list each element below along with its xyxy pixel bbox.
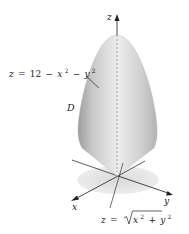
z-axis-label: z (106, 12, 112, 22)
x-axis-arrowhead (71, 196, 79, 202)
svg-text:z =: z = (100, 215, 118, 225)
cone-equation: z = x 2 + y 2 (100, 211, 172, 225)
region-label: D (66, 102, 75, 113)
y-axis-arrowhead (166, 191, 173, 196)
paraboloid-equation: z = 12 − x 2 − y 2 (8, 65, 96, 79)
y-axis-label: y (163, 196, 170, 206)
solid-region-diagram: z x y D z = 12 − x 2 − y 2 z = x (0, 0, 189, 234)
svg-text:x 2 + y: x 2 + y 2 (133, 211, 172, 225)
x-axis-label: x (72, 202, 77, 212)
z-axis-arrowhead (115, 14, 120, 21)
solid-surface (78, 35, 157, 176)
svg-text:z = 12 −: z = 12 − x 2 − y 2 (8, 65, 96, 79)
